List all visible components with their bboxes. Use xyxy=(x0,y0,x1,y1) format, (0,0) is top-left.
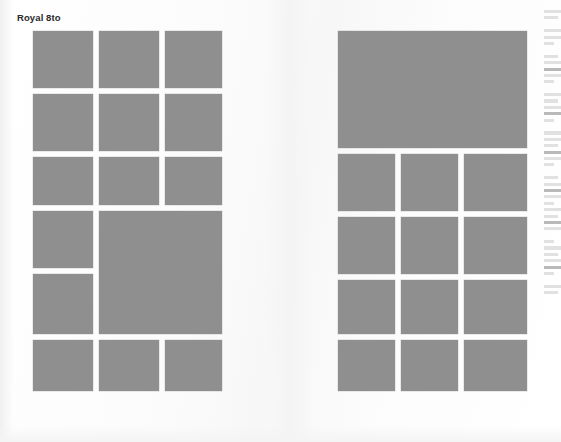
text-line-fragment xyxy=(544,61,561,64)
scanned-page: Royal 8to xyxy=(0,0,561,442)
text-line-fragment xyxy=(544,227,561,230)
illustration-plate xyxy=(99,211,222,334)
text-line-fragment xyxy=(544,87,561,90)
text-line-fragment xyxy=(544,234,561,237)
text-line-fragment xyxy=(544,42,554,45)
text-line-fragment xyxy=(544,29,561,32)
illustration-plate xyxy=(401,340,458,391)
illustration-plate xyxy=(401,154,458,211)
text-line-fragment xyxy=(544,266,561,269)
text-line-fragment xyxy=(544,131,561,134)
illustration-plate xyxy=(464,340,527,391)
text-line-fragment xyxy=(544,195,561,198)
illustration-plate xyxy=(338,340,395,391)
illustration-plate xyxy=(33,94,93,151)
text-line-fragment xyxy=(544,272,554,275)
text-line-fragment xyxy=(544,23,561,26)
text-line-fragment xyxy=(544,119,554,122)
text-line-fragment xyxy=(544,93,561,96)
scan-edge-shadow-left xyxy=(0,0,14,442)
illustration-plate xyxy=(338,280,395,334)
text-line-fragment xyxy=(544,221,561,224)
illustration-plate xyxy=(99,340,159,391)
text-line-fragment xyxy=(544,138,561,141)
illustration-plate xyxy=(33,157,93,205)
illustration-plate xyxy=(99,157,159,205)
illustration-plate xyxy=(99,31,159,88)
illustration-plate xyxy=(401,280,458,334)
illustration-plate xyxy=(464,217,527,274)
text-line-fragment xyxy=(544,246,561,249)
text-line-fragment xyxy=(544,189,561,192)
text-line-fragment xyxy=(544,68,561,71)
text-line-fragment xyxy=(544,125,561,128)
text-line-fragment xyxy=(544,10,561,13)
text-line-fragment xyxy=(544,99,558,102)
scan-edge-shadow-bottom xyxy=(0,426,561,442)
text-line-fragment xyxy=(544,36,561,39)
text-line-fragment xyxy=(544,163,554,166)
text-line-fragment xyxy=(544,170,561,173)
page-gutter-shadow xyxy=(268,0,314,442)
illustration-plate xyxy=(338,154,395,211)
text-line-fragment xyxy=(544,291,558,294)
text-line-fragment xyxy=(544,183,561,186)
text-line-fragment xyxy=(544,151,561,154)
text-line-fragment xyxy=(544,16,558,19)
text-line-fragment xyxy=(544,157,561,160)
text-line-fragment xyxy=(544,259,561,262)
text-line-fragment xyxy=(544,215,558,218)
left-page-plate-grid xyxy=(33,31,222,412)
illustration-plate xyxy=(464,280,527,334)
illustration-plate xyxy=(464,154,527,211)
right-page-plate-grid xyxy=(338,31,527,412)
text-line-fragment xyxy=(544,55,558,58)
text-line-fragment xyxy=(544,253,558,256)
illustration-plate xyxy=(338,31,527,148)
text-line-fragment xyxy=(544,80,554,83)
illustration-plate xyxy=(165,94,222,151)
text-line-fragment xyxy=(544,285,561,288)
text-line-fragment xyxy=(544,48,561,51)
text-line-fragment xyxy=(544,240,554,243)
illustration-plate xyxy=(401,217,458,274)
cropped-text-column xyxy=(544,10,561,310)
text-line-fragment xyxy=(544,176,558,179)
text-line-fragment xyxy=(544,208,561,211)
text-line-fragment xyxy=(544,144,558,147)
text-line-fragment xyxy=(544,112,561,115)
illustration-plate xyxy=(165,31,222,88)
text-line-fragment xyxy=(544,278,561,281)
text-line-fragment xyxy=(544,202,554,205)
illustration-plate xyxy=(165,340,222,391)
text-line-fragment xyxy=(544,106,561,109)
illustration-plate xyxy=(33,31,93,88)
page-title: Royal 8to xyxy=(17,12,61,23)
illustration-plate xyxy=(33,274,93,334)
illustration-plate xyxy=(33,211,93,268)
illustration-plate xyxy=(99,94,159,151)
text-line-fragment xyxy=(544,74,561,77)
illustration-plate xyxy=(165,157,222,205)
illustration-plate xyxy=(338,217,395,274)
illustration-plate xyxy=(33,340,93,391)
